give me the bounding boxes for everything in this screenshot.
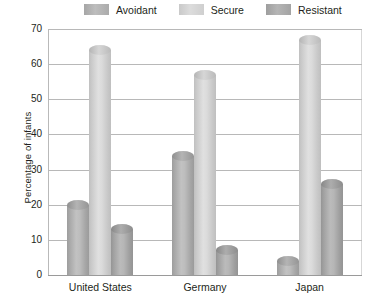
y-axis-tick-label: 70 <box>31 24 42 34</box>
y-axis-tick-label: 40 <box>31 129 42 139</box>
bar-secure-japan <box>299 40 321 275</box>
bar-top-cap <box>277 256 299 266</box>
bar-resistant-united-states <box>111 229 133 275</box>
bar-secure-germany <box>194 75 216 275</box>
x-axis-label-germany: Germany <box>183 281 226 293</box>
chart-legend: Avoidant Secure Resistant <box>84 2 342 17</box>
bar-top-cap <box>194 70 216 80</box>
bar-top-cap <box>216 245 238 255</box>
y-axis-tick-label: 50 <box>31 94 42 104</box>
legend-label-resistant: Resistant <box>298 4 342 16</box>
bar-chart: Avoidant Secure Resistant Percentage of … <box>0 0 369 300</box>
bar-top-cap <box>89 45 111 55</box>
y-axis-tick-label: 60 <box>31 59 42 69</box>
bars-layer <box>48 29 362 275</box>
y-axis-tick-label: 0 <box>36 270 42 280</box>
bar-resistant-japan <box>321 184 343 275</box>
x-axis-label-united-states: United States <box>69 281 132 293</box>
bar-avoidant-germany <box>172 156 194 275</box>
legend-label-avoidant: Avoidant <box>116 4 157 16</box>
plot-area: 010203040506070 <box>48 29 362 275</box>
y-axis-tick-label: 20 <box>31 200 42 210</box>
bar-top-cap <box>67 200 89 210</box>
legend-item-resistant: Resistant <box>266 4 342 16</box>
gridline: 0 <box>48 275 362 276</box>
legend-swatch-resistant <box>266 4 291 15</box>
legend-item-avoidant: Avoidant <box>84 4 157 16</box>
y-axis-tick-label: 10 <box>31 235 42 245</box>
x-axis-labels: United StatesGermanyJapan <box>48 281 362 297</box>
bar-avoidant-united-states <box>67 205 89 275</box>
legend-swatch-avoidant <box>84 4 109 15</box>
legend-swatch-secure <box>179 4 204 15</box>
bar-top-cap <box>299 35 321 45</box>
bar-resistant-germany <box>216 250 238 275</box>
legend-label-secure: Secure <box>211 4 244 16</box>
bar-top-cap <box>321 179 343 189</box>
bar-avoidant-japan <box>277 261 299 275</box>
x-axis-label-japan: Japan <box>295 281 324 293</box>
bar-secure-united-states <box>89 50 111 275</box>
y-axis-tick-label: 30 <box>31 165 42 175</box>
legend-item-secure: Secure <box>179 4 244 16</box>
bar-top-cap <box>111 224 133 234</box>
bar-top-cap <box>172 151 194 161</box>
